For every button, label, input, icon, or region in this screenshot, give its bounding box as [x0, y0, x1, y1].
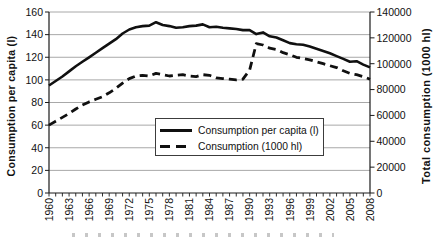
left-tick-label: 20: [31, 164, 43, 176]
dashed-line-swatch: [160, 145, 192, 148]
left-tick-label: 60: [31, 119, 43, 131]
right-tick-label: 0: [377, 187, 383, 199]
x-tick-label: 1978: [163, 198, 175, 222]
x-tick-label: 1963: [63, 198, 75, 222]
legend-label-total: Consumption (1000 hl): [198, 141, 302, 152]
cropped-caption-remnant: [72, 233, 334, 237]
x-tick-label: 1999: [304, 198, 316, 222]
right-tick-label: 60000: [377, 109, 406, 121]
x-tick-label: 1996: [284, 198, 296, 222]
series-total-consumption: [49, 44, 370, 125]
x-tick-label: 1993: [263, 198, 275, 222]
left-tick-label: 120: [25, 51, 43, 63]
legend: Consumption per capita (l) Consumption (…: [155, 118, 324, 156]
x-tick-label: 1984: [203, 198, 215, 222]
left-axis-title: Consumption per capita (l): [5, 36, 17, 177]
right-tick-label: 100000: [377, 58, 412, 70]
legend-row-per-capita: Consumption per capita (l): [160, 122, 323, 138]
left-tick-label: 0: [37, 187, 43, 199]
x-tick-label: 1990: [243, 198, 255, 222]
legend-label-per-capita: Consumption per capita (l): [198, 125, 319, 136]
x-tick-label: 1975: [143, 198, 155, 222]
right-tick-label: 80000: [377, 83, 406, 95]
x-tick-label: 1969: [103, 198, 115, 222]
solid-line-swatch: [160, 129, 192, 132]
left-tick-label: 160: [25, 6, 43, 18]
right-axis-title: Total consumption (1000 hl): [420, 28, 432, 184]
x-tick-label: 1966: [83, 198, 95, 222]
beer-consumption-chart: 0204060801001201401600200004000060000800…: [0, 0, 434, 238]
x-tick-label: 2008: [364, 198, 376, 222]
right-tick-label: 120000: [377, 32, 412, 44]
x-tick-label: 1960: [43, 198, 55, 222]
right-tick-label: 40000: [377, 135, 406, 147]
x-tick-label: 1981: [183, 198, 195, 222]
right-tick-label: 140000: [377, 6, 412, 18]
left-tick-label: 80: [31, 96, 43, 108]
x-tick-label: 1972: [123, 198, 135, 222]
x-tick-label: 2002: [324, 198, 336, 222]
x-tick-label: 1987: [223, 198, 235, 222]
left-tick-label: 100: [25, 74, 43, 86]
right-tick-label: 20000: [377, 161, 406, 173]
x-tick-label: 2005: [344, 198, 356, 222]
left-tick-label: 40: [31, 142, 43, 154]
left-tick-label: 140: [25, 28, 43, 40]
legend-row-total: Consumption (1000 hl): [160, 138, 323, 154]
